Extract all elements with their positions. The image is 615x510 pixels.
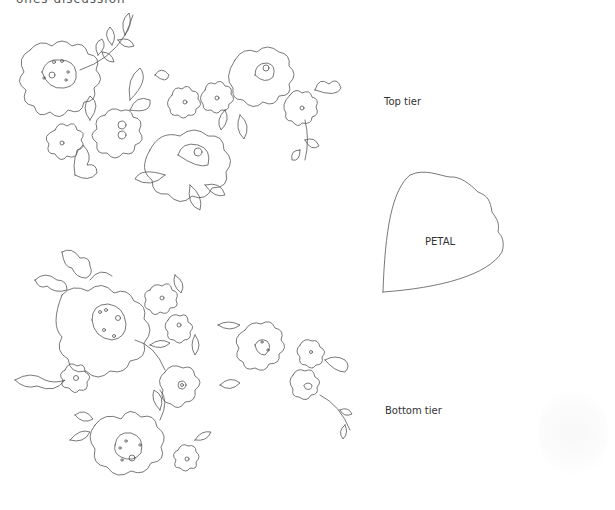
top-tier-label: Top tier [384, 96, 421, 107]
petal-template-outline [383, 172, 503, 292]
petal-label: PETAL [425, 236, 455, 247]
bottom-tier-pattern [15, 250, 352, 475]
embroidery-pattern-art [0, 0, 615, 510]
bottom-tier-label: Bottom tier [385, 405, 442, 416]
top-tier-pattern [19, 13, 341, 210]
faint-watermark-image [538, 385, 608, 480]
